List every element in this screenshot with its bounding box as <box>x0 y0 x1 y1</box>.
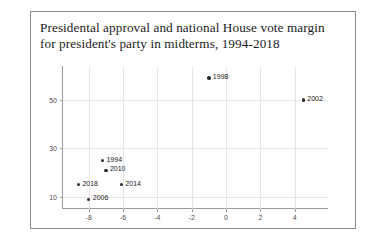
y-tick-mark <box>60 197 63 198</box>
x-gridline <box>192 66 193 209</box>
x-tick-label: -8 <box>86 214 92 221</box>
x-tick-mark <box>123 209 124 212</box>
x-tick-label: -2 <box>189 214 195 221</box>
x-tick-label: 2 <box>258 214 262 221</box>
data-point-label: 1998 <box>213 73 229 80</box>
data-point-label: 2018 <box>82 180 98 187</box>
data-point-label: 2014 <box>125 180 141 187</box>
y-tick-mark <box>60 100 63 101</box>
data-point-marker <box>207 76 210 79</box>
chart-figure: Presidental approval and national House … <box>0 0 366 245</box>
x-tick-label: 4 <box>293 214 297 221</box>
data-point-marker <box>104 169 107 172</box>
x-gridline <box>123 66 124 209</box>
plot-area: -8-6-4-202450301019982002199420102018201… <box>62 66 328 209</box>
x-tick-label: -4 <box>154 214 160 221</box>
y-tick-mark <box>60 148 63 149</box>
chart-title-line-2: for president's party in midterms, 1994-… <box>40 36 345 52</box>
x-gridline <box>226 66 227 209</box>
x-gridline <box>260 66 261 209</box>
x-tick-mark <box>295 209 296 212</box>
y-tick-label: 10 <box>43 193 57 200</box>
y-tick-label: 30 <box>43 145 57 152</box>
chart-title: Presidental approval and national House … <box>40 20 345 51</box>
x-gridline <box>295 66 296 209</box>
data-point-marker <box>302 98 305 101</box>
data-point-marker <box>77 183 80 186</box>
x-tick-label: 0 <box>224 214 228 221</box>
x-tick-mark <box>226 209 227 212</box>
data-point-label: 2006 <box>93 194 109 201</box>
x-gridline <box>89 66 90 209</box>
y-gridline <box>63 100 329 101</box>
data-point-marker <box>101 159 104 162</box>
data-point-marker <box>87 198 90 201</box>
data-point-label: 1994 <box>106 156 122 163</box>
x-tick-mark <box>260 209 261 212</box>
x-gridline <box>157 66 158 209</box>
data-point-label: 2002 <box>307 95 323 102</box>
x-tick-label: -6 <box>120 214 126 221</box>
x-tick-mark <box>157 209 158 212</box>
y-gridline <box>63 148 329 149</box>
x-tick-mark <box>89 209 90 212</box>
chart-title-line-1: Presidental approval and national House … <box>40 20 345 36</box>
y-tick-label: 50 <box>43 96 57 103</box>
data-point-label: 2010 <box>110 165 126 172</box>
x-tick-mark <box>192 209 193 212</box>
